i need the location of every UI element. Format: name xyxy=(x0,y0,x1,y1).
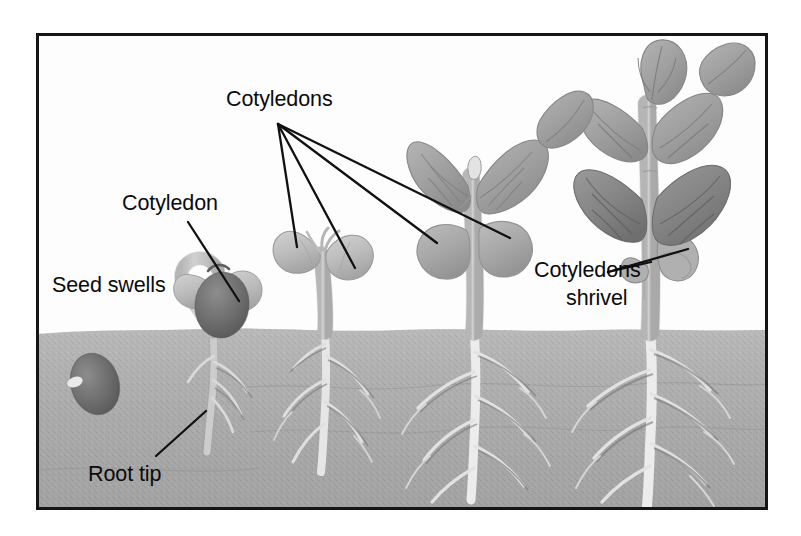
apical-bud xyxy=(468,156,481,179)
germination-diagram-canvas: Cotyledons Cotyledon Seed swells Root ti… xyxy=(0,0,801,536)
label-cotyledons-top: Cotyledons xyxy=(226,87,333,111)
label-cotyledons-shrivel-line2: shrivel xyxy=(566,286,627,310)
illustration-body xyxy=(36,33,768,509)
label-cotyledons-shrivel-line1: Cotyledons xyxy=(534,258,641,282)
label-root-tip: Root tip xyxy=(88,462,161,486)
label-seed-swells: Seed swells xyxy=(52,273,166,297)
germination-diagram-figure: Cotyledons Cotyledon Seed swells Root ti… xyxy=(0,0,801,536)
label-cotyledon-single: Cotyledon xyxy=(122,191,218,215)
cotyledon-right xyxy=(479,221,533,277)
